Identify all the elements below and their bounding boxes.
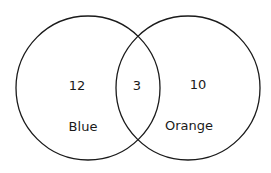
blue-set-label: Blue <box>69 120 98 133</box>
blue-only-count: 12 <box>69 79 86 92</box>
intersection-count: 3 <box>133 79 141 92</box>
orange-only-count: 10 <box>190 78 207 91</box>
orange-set-label: Orange <box>165 119 213 132</box>
